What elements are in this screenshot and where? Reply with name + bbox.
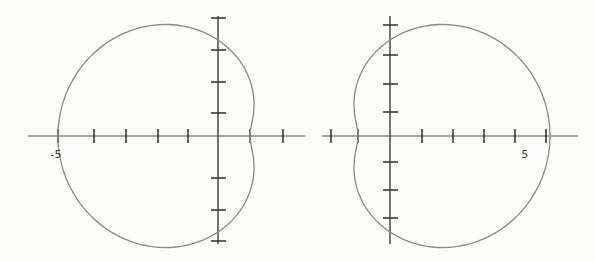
- right-plot-x-tick-label-5: 5: [521, 148, 528, 161]
- left-plot: -5: [28, 16, 305, 248]
- plot-canvas: -5: [0, 0, 595, 262]
- polar-curves-figure: -5: [0, 0, 595, 262]
- right-plot: 5: [322, 16, 578, 248]
- left-plot-x-tick-label--5: -5: [50, 148, 62, 161]
